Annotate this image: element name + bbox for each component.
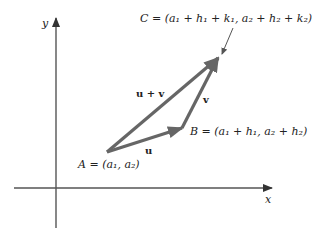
point-a-label: A = (a₁, a₂) xyxy=(77,158,140,171)
y-axis-label: y xyxy=(41,17,49,30)
vector-u-plus-v-label: u + v xyxy=(136,88,166,99)
point-b-label: B = (a₁ + h₁, a₂ + h₂) xyxy=(189,125,307,138)
x-axis-label: x xyxy=(265,193,272,206)
vector-v-label: v xyxy=(202,94,210,105)
point-c-leader-line xyxy=(222,28,233,54)
vector-v xyxy=(182,58,218,128)
point-c-label: C = (a₁ + h₁ + k₁, a₂ + h₂ + k₂) xyxy=(140,12,312,25)
vector-addition-diagram: x y u v u + v A = (a₁, a₂) B = (a₁ + h₁,… xyxy=(0,0,313,238)
vector-u-label: u xyxy=(145,145,152,156)
